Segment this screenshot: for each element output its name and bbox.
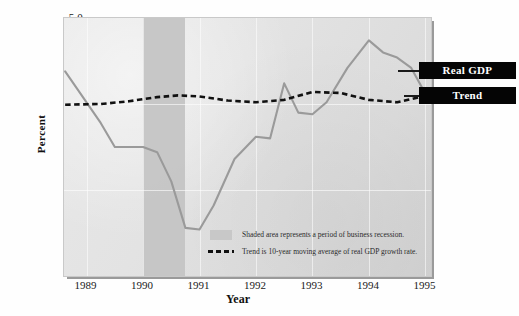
legend-trend-swatch [208,250,234,253]
x-tick-label: 1993 [281,279,341,291]
x-tick-label: 1992 [225,279,285,291]
legend-recession-note: Shaded area represents a period of busin… [242,230,404,239]
real-gdp-leader-line [398,70,420,72]
legend-trend-note: Trend is 10-year moving average of real … [242,247,417,256]
x-tick-label: 1991 [169,279,229,291]
legend-recession-swatch [210,230,232,240]
trend-callout: Trend [419,87,516,104]
x-tick-label: 1989 [56,279,116,291]
x-tick-label: 1995 [394,279,454,291]
figure-root: 5.0 2.5 0.0 -2.5 Percent [0,0,519,316]
real-gdp-line [65,40,422,229]
x-tick-label: 1990 [112,279,172,291]
x-tick-label: 1994 [338,279,398,291]
trend-leader-line [404,95,420,97]
real-gdp-callout: Real GDP [419,62,516,79]
plot-area: Shaded area represents a period of busin… [63,17,432,277]
y-axis-title: Percent [35,115,47,154]
trend-line [65,92,422,105]
x-axis-title: Year [208,292,268,307]
